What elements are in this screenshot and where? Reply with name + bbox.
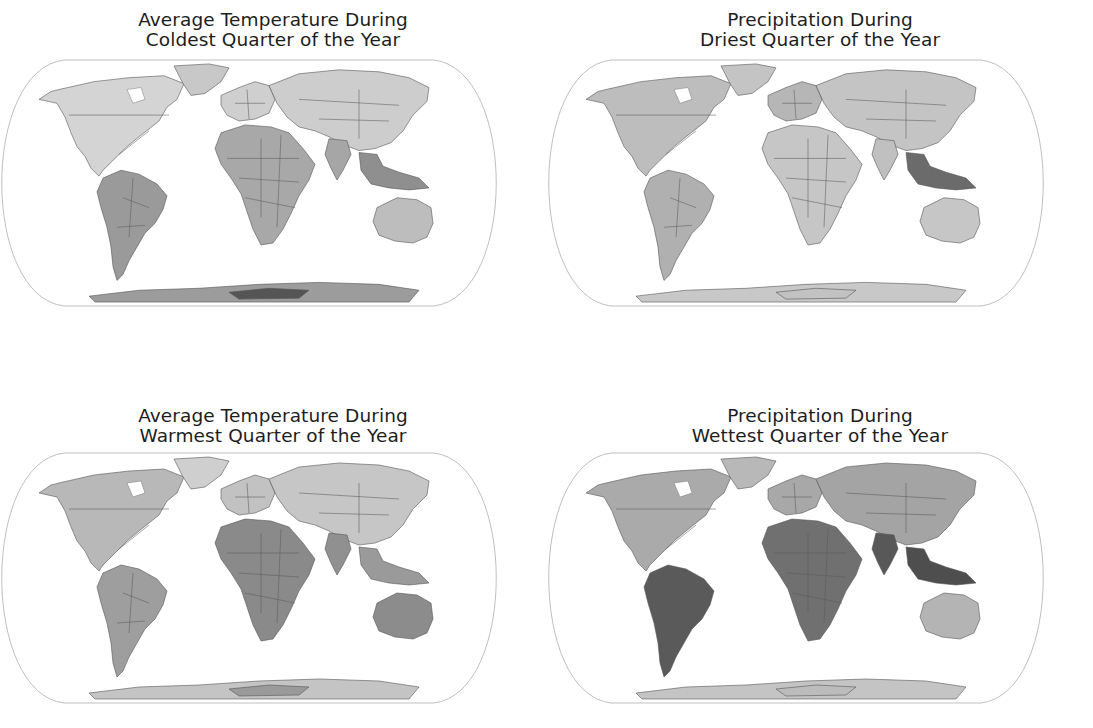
panel-temp-warmest: Average Temperature During Warmest Quart… bbox=[0, 396, 546, 728]
panel-precip-wettest: Precipitation During Wettest Quarter of … bbox=[547, 396, 1093, 728]
panel-temp-coldest: Average Temperature During Coldest Quart… bbox=[0, 0, 546, 364]
world-map bbox=[0, 396, 546, 728]
panel-precip-driest: Precipitation During Driest Quarter of t… bbox=[547, 0, 1093, 364]
world-map bbox=[0, 0, 546, 364]
world-map bbox=[547, 0, 1093, 364]
world-map bbox=[547, 396, 1093, 728]
